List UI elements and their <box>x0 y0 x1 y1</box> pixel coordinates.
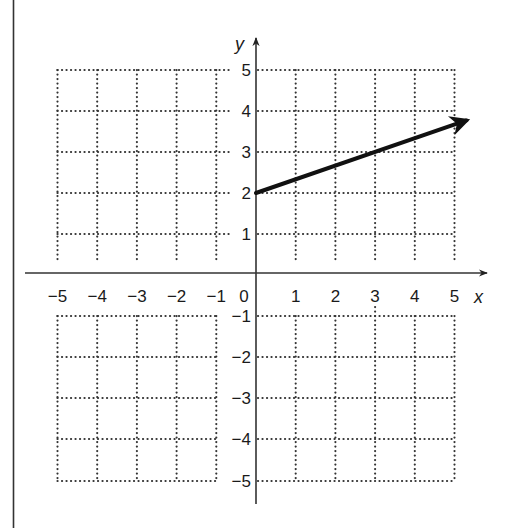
y-tick-label: −3 <box>232 389 251 408</box>
y-tick-label: 4 <box>242 102 251 121</box>
y-tick-labels: 54321−1−2−3−4−5 <box>232 61 251 491</box>
x-tick-labels: −5−4−3−2−1012345 <box>48 287 459 306</box>
x-tick-label: −1 <box>207 287 226 306</box>
y-tick-label: −2 <box>232 348 251 367</box>
x-tick-label: 5 <box>450 287 459 306</box>
y-tick-label: 5 <box>242 61 251 80</box>
y-tick-label: 1 <box>242 225 251 244</box>
y-axis-label: y <box>233 34 245 54</box>
x-tick-label: −4 <box>88 287 107 306</box>
y-tick-label: 3 <box>242 143 251 162</box>
x-tick-label: −2 <box>167 287 186 306</box>
x-tick-label: −3 <box>127 287 146 306</box>
x-tick-label: 4 <box>410 287 419 306</box>
x-tick-label: 0 <box>239 287 248 306</box>
x-tick-label: −5 <box>48 287 67 306</box>
coordinate-plane: x y −5−4−3−2−1012345 54321−1−2−3−4−5 <box>0 0 519 528</box>
y-tick-label: 2 <box>242 184 251 203</box>
y-tick-label: −5 <box>232 472 251 491</box>
x-tick-label: 3 <box>370 287 379 306</box>
x-tick-label: 2 <box>331 287 340 306</box>
y-tick-label: −1 <box>232 307 251 326</box>
x-axis-label: x <box>473 287 484 307</box>
y-tick-label: −4 <box>232 430 251 449</box>
ray-line <box>256 120 466 193</box>
x-tick-label: 1 <box>291 287 300 306</box>
